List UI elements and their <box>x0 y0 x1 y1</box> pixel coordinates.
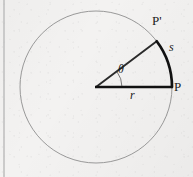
label-radius-r: r <box>130 89 135 101</box>
label-point-p-prime: P' <box>152 14 162 27</box>
label-point-p: P <box>174 80 181 93</box>
geometry-figure: P' s P r θ <box>0 0 193 177</box>
circle-diagram-svg <box>0 0 193 177</box>
label-arc-length-s: s <box>169 41 174 53</box>
radius-line-to-p-prime <box>96 41 157 87</box>
label-angle-theta: θ <box>118 63 124 75</box>
